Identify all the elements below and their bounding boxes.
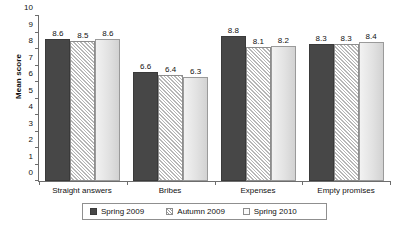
legend-item[interactable]: Spring 2009: [90, 207, 166, 216]
x-tick-mark: [127, 181, 128, 185]
plot-area: 012345678910 8.68.58.66.66.46.38.88.18.2…: [38, 16, 390, 182]
legend-item[interactable]: Autumn 2009: [166, 207, 242, 216]
legend-swatch-icon: [166, 208, 173, 215]
bar-group: 8.38.38.4: [302, 16, 390, 181]
bar-slot: 8.3: [309, 16, 334, 181]
x-axis-category-label: Straight answers: [38, 186, 126, 195]
y-tick-label: 7: [29, 52, 33, 61]
legend-swatch-icon: [243, 208, 250, 215]
x-axis-ticks: [39, 181, 390, 185]
bar-chart: Mean score 012345678910 8.68.58.66.66.46…: [0, 0, 408, 230]
legend-label: Spring 2010: [254, 207, 297, 216]
bar-value-label: 8.3: [316, 34, 327, 43]
bar: 8.8: [221, 36, 246, 181]
bar-slot: 8.3: [334, 16, 359, 181]
x-tick-mark: [302, 181, 303, 185]
bar-slot: 8.6: [95, 16, 120, 181]
bar: 6.3: [183, 77, 208, 181]
bar-value-label: 8.6: [52, 29, 63, 38]
bar-slot: 8.1: [246, 16, 271, 181]
y-tick-label: 4: [29, 102, 33, 111]
bar-value-label: 8.5: [77, 31, 88, 40]
bar-slot: 6.6: [133, 16, 158, 181]
x-tick-mark: [390, 181, 391, 185]
bar: 8.4: [359, 42, 384, 181]
bar: 8.6: [95, 39, 120, 181]
bar-value-label: 8.3: [341, 34, 352, 43]
bar-value-label: 6.3: [190, 67, 201, 76]
y-tick-label: 8: [29, 36, 33, 45]
bar-slot: 8.8: [221, 16, 246, 181]
bar: 6.6: [133, 72, 158, 181]
bar: 8.5: [70, 41, 95, 181]
bar-group: 8.88.18.2: [215, 16, 303, 181]
y-tick-label: 0: [29, 168, 33, 177]
y-tick-label: 1: [29, 151, 33, 160]
bar-value-label: 6.6: [140, 62, 151, 71]
bar: 6.4: [158, 75, 183, 181]
legend-swatch-icon: [90, 208, 97, 215]
x-axis-labels: Straight answersBribesExpensesEmpty prom…: [38, 186, 390, 195]
bar-value-label: 8.8: [228, 26, 239, 35]
bar-slot: 6.3: [183, 16, 208, 181]
bar-group: 8.68.58.6: [39, 16, 127, 181]
y-tick-label: 6: [29, 69, 33, 78]
x-tick-mark: [39, 181, 40, 185]
y-axis-title: Mean score: [14, 27, 23, 127]
bar-slot: 8.5: [70, 16, 95, 181]
chart-legend: Spring 2009Autumn 2009Spring 2010: [82, 203, 327, 220]
bar-value-label: 8.6: [102, 29, 113, 38]
bar: 8.3: [309, 44, 334, 181]
x-axis-category-label: Bribes: [126, 186, 214, 195]
bar-slot: 8.6: [45, 16, 70, 181]
y-tick-label: 9: [29, 19, 33, 28]
x-axis-category-label: Expenses: [214, 186, 302, 195]
bar: 8.2: [271, 46, 296, 181]
x-axis-category-label: Empty promises: [302, 186, 390, 195]
y-tick-label: 5: [29, 85, 33, 94]
legend-label: Spring 2009: [101, 207, 144, 216]
bar-value-label: 8.1: [253, 37, 264, 46]
bar-value-label: 6.4: [165, 65, 176, 74]
y-tick-label: 2: [29, 135, 33, 144]
bar-groups: 8.68.58.66.66.46.38.88.18.28.38.38.4: [39, 16, 390, 181]
bar-group: 6.66.46.3: [127, 16, 215, 181]
bar-slot: 6.4: [158, 16, 183, 181]
bar: 8.3: [334, 44, 359, 181]
bar-value-label: 8.2: [278, 36, 289, 45]
bar-slot: 8.4: [359, 16, 384, 181]
bar: 8.6: [45, 39, 70, 181]
legend-item[interactable]: Spring 2010: [243, 207, 319, 216]
x-tick-mark: [215, 181, 216, 185]
bar-value-label: 8.4: [366, 32, 377, 41]
y-tick-label: 3: [29, 118, 33, 127]
bar: 8.1: [246, 47, 271, 181]
legend-label: Autumn 2009: [177, 207, 225, 216]
y-tick-label: 10: [24, 3, 33, 12]
bar-slot: 8.2: [271, 16, 296, 181]
